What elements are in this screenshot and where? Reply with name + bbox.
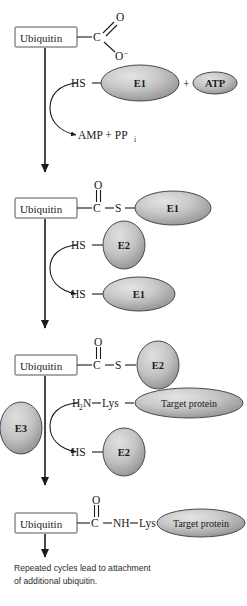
e1-label-step2-product: E1 [133, 289, 145, 300]
step2-ubiquitin-box: Ubiquitin [15, 198, 77, 218]
sulfur-atom-label-step3: S [115, 359, 121, 371]
step2-reactant-hs-e2: HS E2 [71, 221, 145, 269]
carbon-atom-label-step2: C [93, 202, 101, 214]
sulfur-atom-label-step2: S [115, 202, 121, 214]
step1-carboxylate-group: C O O – [77, 11, 128, 62]
hs-label-step2: HS [71, 239, 86, 251]
diagram-canvas: Ubiquitin C O O – HS E1 + ATP [0, 0, 247, 606]
lys-label-step3: Lys [102, 397, 119, 410]
target-protein-label-step4: Target protein [173, 518, 229, 529]
carbonyl-oxygen-label: O [116, 11, 124, 23]
nh-label: NH [113, 517, 130, 529]
carbon-atom-label-step3: C [93, 359, 101, 371]
step1-ubiquitin-box: Ubiquitin [15, 27, 77, 47]
step2-ubiquitin-label: Ubiquitin [20, 203, 63, 215]
plus-sign-step1: + [183, 78, 190, 90]
ppi-subscript-label: i [134, 135, 136, 144]
carbon-atom-label-step4: C [91, 517, 99, 529]
hs-label-step2-product: HS [71, 288, 86, 300]
step3-reactant-lysine: H 2 N Lys Target protein [72, 388, 243, 418]
e2-label-step2: E2 [118, 240, 130, 251]
target-protein-label-step3: Target protein [161, 398, 217, 409]
curved-arrow-step3 [50, 403, 78, 452]
carbonyl-oxygen-label-step3: O [94, 336, 102, 348]
carbon-atom-label: C [93, 31, 101, 43]
curved-arrow-step2 [50, 245, 78, 294]
lys-label-step4: Lys [139, 517, 156, 530]
e2-blob-step3: E2 [137, 341, 179, 389]
e1-blob-step1: E1 [101, 65, 179, 101]
figure-caption: Repeated cycles lead to attachment of ad… [14, 562, 154, 587]
step3-ubiquitin-label: Ubiquitin [20, 360, 63, 372]
hs-label-step1: HS [71, 77, 86, 89]
e2-label-step3: E2 [152, 360, 164, 371]
hs-label-step3-product: HS [71, 446, 86, 458]
e2-label-step3-product: E2 [118, 447, 130, 458]
ubiquitin-pathway-diagram: Ubiquitin C O O – HS E1 + ATP [0, 0, 247, 606]
step4-ubiquitin-label: Ubiquitin [20, 518, 63, 530]
e1-blob-step2: E1 [135, 191, 211, 225]
step4-ubiquitin-box: Ubiquitin [15, 513, 77, 533]
step3-product-hs-e2: HS E2 [71, 428, 145, 476]
carbonyl-oxygen-label-step2: O [94, 179, 102, 191]
e1-label-step2: E1 [167, 203, 179, 214]
curved-arrow-step1 [50, 83, 78, 135]
step2-product-hs-e1: HS E1 [71, 277, 175, 311]
step3-thioester-group: C O S [77, 336, 136, 371]
atp-blob: ATP [193, 72, 237, 94]
step3-ubiquitin-box: Ubiquitin [15, 355, 77, 375]
e3-blob: E3 [0, 402, 42, 454]
step4-isopeptide-group: C O NH Lys Target protein [77, 494, 245, 537]
step1-reactant-hs: HS [71, 77, 104, 89]
e1-label-step1: E1 [134, 78, 146, 89]
step1-ubiquitin-label: Ubiquitin [20, 32, 63, 44]
step1-products: AMP + PP i [78, 129, 136, 144]
e3-label: E3 [15, 423, 27, 434]
atp-label: ATP [205, 78, 226, 89]
step2-thioester-group: C O S [77, 179, 136, 214]
amp-ppi-label: AMP + PP [78, 129, 128, 141]
h2n-nitrogen-label: N [83, 397, 92, 409]
carboxylate-oxygen-label: O [115, 50, 123, 62]
carboxylate-charge-label: – [123, 48, 128, 57]
carbonyl-oxygen-label-step4: O [92, 494, 100, 506]
